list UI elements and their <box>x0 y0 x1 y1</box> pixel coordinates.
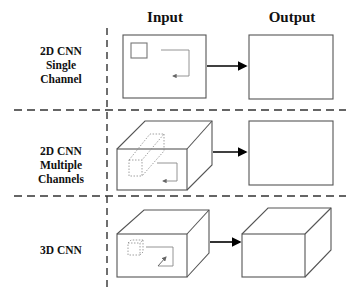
scan-path <box>146 247 173 266</box>
row-label-2d-single: 2D CNN Single Channel <box>40 45 83 85</box>
svg-text:Single: Single <box>46 59 76 72</box>
output-2d-multi <box>249 121 333 185</box>
output-2d-single <box>249 35 333 99</box>
kernel-prism <box>129 134 164 176</box>
kernel-cube <box>128 240 143 255</box>
svg-text:2D CNN: 2D CNN <box>40 145 83 157</box>
svg-text:Channel: Channel <box>40 73 82 85</box>
cnn-comparison-diagram: Input Output 2D CNN Single Channel 2D CN… <box>0 0 354 302</box>
output-header: Output <box>269 9 316 25</box>
svg-text:Multiple: Multiple <box>40 159 82 172</box>
svg-text:Channels: Channels <box>38 173 85 185</box>
scan-path <box>161 50 189 76</box>
input-2d-single-channel <box>123 35 206 98</box>
input-header: Input <box>147 9 183 25</box>
row-label-2d-multiple: 2D CNN Multiple Channels <box>38 145 85 185</box>
output-3d-volume <box>242 208 331 277</box>
input-3d-volume <box>117 210 209 277</box>
row-label-3d: 3D CNN <box>40 244 83 256</box>
svg-text:2D CNN: 2D CNN <box>40 45 83 57</box>
scan-path <box>157 163 177 181</box>
kernel-square <box>131 43 147 58</box>
input-3d-multi-channel <box>117 121 212 190</box>
